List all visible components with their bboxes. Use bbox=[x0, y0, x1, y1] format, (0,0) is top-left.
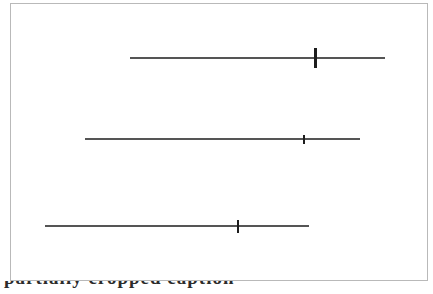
screenshot-root: partially cropped caption bbox=[0, 0, 433, 294]
plot-frame bbox=[10, 3, 428, 281]
caption-text: partially cropped caption bbox=[4, 281, 235, 287]
caption-strip: partially cropped caption bbox=[0, 281, 433, 294]
